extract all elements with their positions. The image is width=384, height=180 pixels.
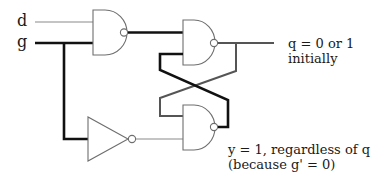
d-input-label: d bbox=[17, 11, 27, 30]
g-branch-wire bbox=[64, 43, 88, 139]
q-annotation-line1: q = 0 or 1 bbox=[288, 36, 354, 51]
q-annotation-line2: initially bbox=[288, 51, 338, 66]
nand-bubble-icon bbox=[120, 29, 127, 36]
nand-bubble-icon bbox=[210, 39, 217, 46]
g-input-label: g bbox=[17, 32, 27, 51]
inverter-bubble-icon bbox=[128, 135, 135, 142]
y-annotation-line1: y = 1, regardless of q bbox=[227, 142, 370, 157]
y-annotation-line2: (because g' = 0) bbox=[228, 157, 335, 172]
y-nand-gate bbox=[183, 105, 218, 150]
q-nand-gate bbox=[183, 20, 218, 65]
nand-bubble-icon bbox=[210, 123, 217, 130]
latch-circuit-diagram: d g q = 0 or 1 initially y = 1, regardle… bbox=[0, 0, 384, 180]
input-nand-gate bbox=[93, 10, 128, 55]
inverter-gate bbox=[88, 117, 136, 161]
